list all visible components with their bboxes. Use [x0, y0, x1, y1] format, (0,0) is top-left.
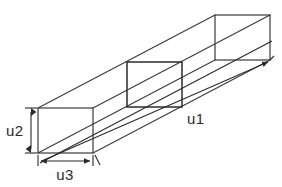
u1-measure-line — [44, 62, 268, 160]
u2-label: u2 — [6, 122, 24, 139]
front-face-rect — [38, 108, 93, 153]
front-face — [38, 108, 93, 153]
u1-witness-line — [40, 41, 272, 163]
back-face — [215, 15, 270, 60]
beam-longitudinal-edges — [38, 15, 270, 153]
u3-label: u3 — [56, 166, 74, 183]
beam-diagram-svg: u2 u3 u1 — [0, 0, 282, 187]
beam-diagram-canvas: u2 u3 u1 — [0, 0, 282, 187]
u1-label: u1 — [187, 110, 205, 127]
u1-ext-far — [270, 56, 274, 60]
dimension-u2 — [25, 108, 37, 153]
back-face-rect — [215, 15, 270, 60]
middle-face — [127, 62, 182, 107]
u1-ext-near — [95, 155, 100, 165]
dimension-u3 — [38, 155, 93, 166]
middle-face-rect — [127, 62, 182, 107]
